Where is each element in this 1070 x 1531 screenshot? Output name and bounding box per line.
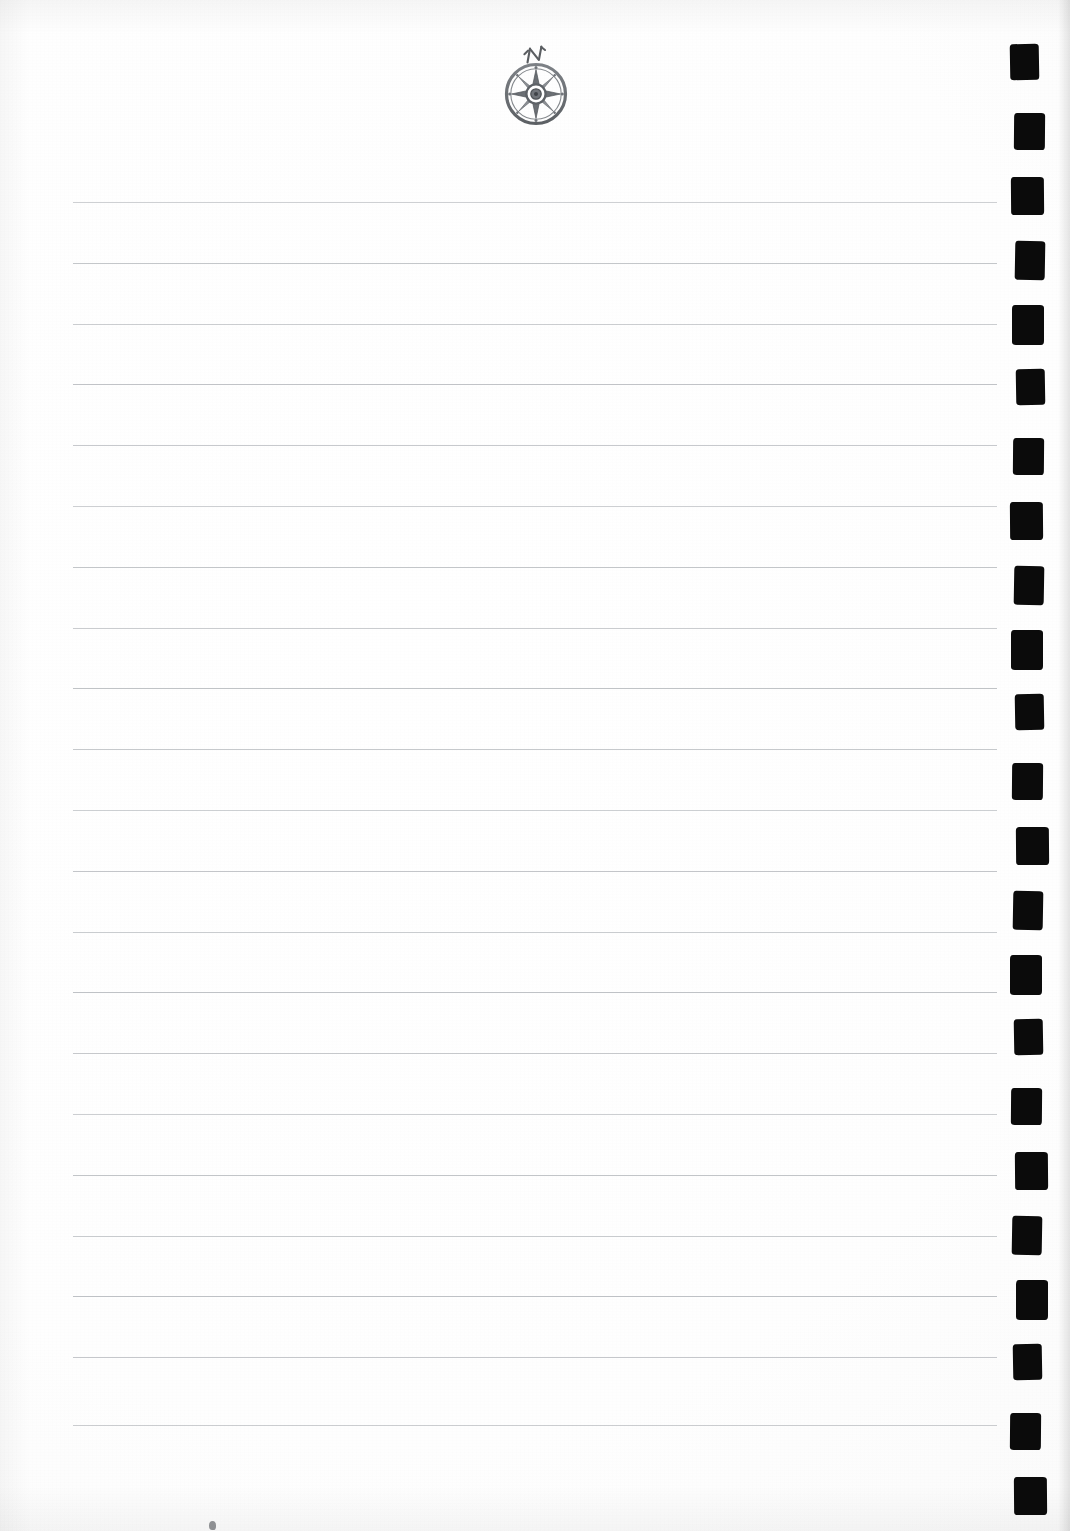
binding-registration-marks (0, 0, 1070, 1531)
binding-mark (1014, 566, 1045, 606)
binding-mark (1010, 1413, 1041, 1450)
binding-mark (1016, 1280, 1048, 1320)
binding-mark (1015, 241, 1046, 281)
binding-mark (1012, 305, 1044, 345)
binding-mark (1014, 1019, 1044, 1056)
binding-mark (1014, 113, 1045, 150)
binding-mark (1014, 1477, 1047, 1515)
binding-mark (1016, 369, 1046, 406)
binding-mark (1011, 630, 1043, 670)
scanned-journal-page (0, 0, 1070, 1531)
binding-mark (1010, 502, 1043, 540)
binding-mark (1010, 44, 1040, 81)
binding-mark (1011, 1088, 1042, 1125)
scan-speck-artifact (209, 1521, 216, 1530)
binding-mark (1010, 955, 1042, 995)
binding-mark (1013, 1344, 1043, 1381)
binding-mark (1015, 1152, 1048, 1190)
binding-mark (1016, 827, 1049, 865)
binding-mark (1013, 891, 1044, 931)
binding-mark (1015, 694, 1045, 731)
binding-mark (1011, 177, 1044, 215)
binding-mark (1012, 763, 1043, 800)
binding-mark (1013, 438, 1044, 475)
binding-mark (1012, 1216, 1043, 1256)
